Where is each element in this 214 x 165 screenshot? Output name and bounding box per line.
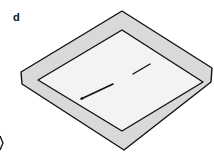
segment-end-dot bbox=[81, 97, 84, 100]
inner-surface bbox=[38, 30, 203, 131]
adjacent-panel-fragment bbox=[0, 136, 3, 150]
tray-diagram bbox=[0, 0, 214, 165]
